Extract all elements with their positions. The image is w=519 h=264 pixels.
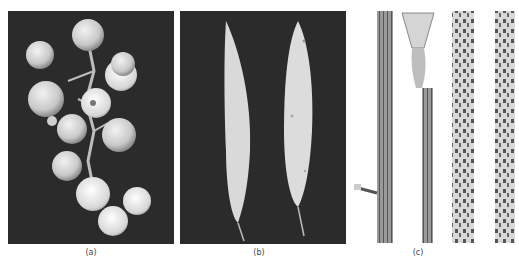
caption-a: (a) xyxy=(76,248,106,257)
panel-b-photo xyxy=(180,11,346,244)
stems-image xyxy=(350,8,519,245)
leaves-image xyxy=(180,11,346,244)
panel-a-photo xyxy=(8,11,174,244)
caption-b: (b) xyxy=(244,248,274,257)
grape-cluster-image xyxy=(8,11,174,244)
caption-c: (c) xyxy=(403,248,433,257)
panel-c-photo xyxy=(350,8,519,245)
